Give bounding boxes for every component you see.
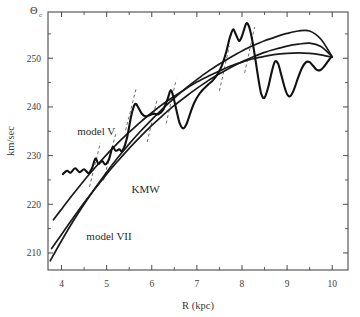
tangent-segment	[126, 87, 137, 130]
axis-tick-labels: 45678910210220230240250	[27, 54, 337, 289]
data-curves	[50, 23, 332, 261]
x-tick-label: 6	[149, 279, 154, 289]
y-tick-label: 210	[27, 248, 42, 258]
x-tick-label: 8	[240, 279, 245, 289]
label-kmw: KMW	[131, 183, 160, 195]
curve-model-vii	[50, 30, 332, 260]
y-tick-label: 230	[27, 151, 42, 161]
y-tick-label: 250	[27, 54, 42, 64]
y-tick-label: 220	[27, 200, 42, 210]
x-tick-label: 7	[194, 279, 199, 289]
y-tick-label: 240	[27, 102, 42, 112]
x-tick-label: 4	[59, 279, 64, 289]
x-axis-title: R (kpc)	[182, 300, 214, 312]
y-axis-symbol-theta: Θ	[30, 5, 38, 16]
tangent-segment	[147, 99, 157, 142]
figure-container: 45678910210220230240250 model VKMWmodel …	[0, 0, 360, 317]
x-tick-label: 10	[327, 279, 337, 289]
y-axis-symbol-subscript: c	[39, 11, 42, 19]
x-tick-label: 5	[104, 279, 109, 289]
y-axis-title: km/sec	[5, 126, 16, 156]
label-model-vii: model VII	[86, 230, 132, 242]
x-tick-label: 9	[285, 279, 290, 289]
rotation-curve-chart: 45678910210220230240250 model VKMWmodel …	[0, 0, 360, 317]
curve-kmw	[52, 43, 333, 249]
label-model-v: model V	[77, 125, 115, 137]
